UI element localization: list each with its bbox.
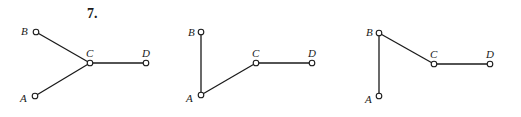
node-b	[33, 29, 39, 35]
edge-b-c	[36, 32, 90, 63]
graph-1: B A C D	[19, 25, 150, 104]
node-c	[253, 60, 259, 66]
node-a	[32, 93, 38, 99]
label-d: D	[141, 47, 150, 59]
edge-a-c	[201, 63, 256, 95]
graph-2: B A C D	[185, 26, 316, 104]
label-a: A	[19, 92, 27, 104]
label-c: C	[252, 47, 260, 59]
diagram-canvas: 7. B A C D B A C D B A C D	[0, 0, 521, 117]
label-a: A	[364, 93, 372, 105]
node-b	[198, 29, 204, 35]
label-d: D	[485, 48, 494, 60]
label-c: C	[86, 47, 94, 59]
label-d: D	[307, 47, 316, 59]
node-d	[487, 61, 493, 67]
label-b: B	[188, 26, 195, 38]
label-b: B	[366, 26, 373, 38]
node-c	[87, 60, 93, 66]
node-c	[431, 61, 437, 67]
node-d	[309, 60, 315, 66]
node-a	[376, 93, 382, 99]
edge-b-c	[379, 33, 434, 64]
edge-a-c	[35, 63, 90, 96]
node-a	[198, 92, 204, 98]
label-a: A	[185, 92, 193, 104]
node-b	[376, 30, 382, 36]
label-c: C	[430, 48, 438, 60]
label-b: B	[21, 25, 28, 37]
graph-3: B A C D	[364, 26, 494, 105]
node-d	[143, 60, 149, 66]
problem-number: 7.	[87, 6, 98, 21]
